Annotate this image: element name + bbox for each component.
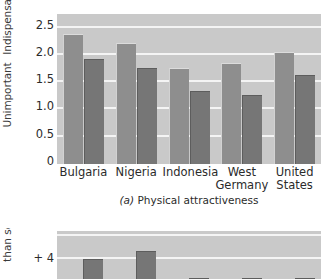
bar <box>169 68 189 164</box>
y-axis-tick-label: 2.0 <box>36 47 54 59</box>
x-axis-tick-labels: BulgariaNigeriaIndonesiaWestGermanyUnite… <box>57 166 321 194</box>
gridline <box>57 26 321 28</box>
bar <box>83 259 103 279</box>
bar <box>63 34 83 164</box>
caption-text: Physical attractiveness <box>137 194 258 206</box>
bar <box>84 59 104 164</box>
bar <box>242 95 262 164</box>
figure-panel-b: than self + 2+ 4 <box>0 228 323 279</box>
y-axis-tick-label: 1.0 <box>36 101 54 113</box>
bar <box>295 75 315 164</box>
bar <box>116 43 136 164</box>
x-axis-tick-label: Indonesia <box>163 166 216 179</box>
plot-area-panel-a <box>57 14 321 164</box>
caption-letter: (a) <box>120 194 135 206</box>
y-axis-label-than-self: than self <box>1 228 13 278</box>
bar <box>221 63 241 164</box>
bar <box>136 251 156 279</box>
figure-caption-a: (a) Physical attractiveness <box>57 194 321 206</box>
bar <box>190 91 210 164</box>
x-axis-tick-label: WestGermany <box>215 166 268 192</box>
y-axis-title-group: Indispensable Unimportant <box>1 12 21 162</box>
bar <box>274 52 294 164</box>
y-axis-tick-labels-b: + 2+ 4 <box>20 228 54 279</box>
y-axis-tick-labels: 00.51.01.52.02.5 <box>22 12 54 164</box>
plot-area-panel-b <box>57 231 321 279</box>
y-axis-tick-label: 1.5 <box>36 74 54 86</box>
y-axis-label-unimportant: Unimportant <box>1 20 13 170</box>
y-axis-tick-label: 0.5 <box>36 129 54 141</box>
x-axis-tick-label: UnitedStates <box>268 166 321 192</box>
y-axis-tick-label: 0 <box>47 156 54 168</box>
x-axis-tick-label: Bulgaria <box>57 166 110 179</box>
x-axis-tick-label: Nigeria <box>110 166 163 179</box>
y-axis-title-group-b: than self <box>1 228 21 279</box>
y-axis-tick-label: + 4 <box>33 253 54 265</box>
bar <box>137 68 157 164</box>
y-axis-tick-label: 2.5 <box>36 20 54 32</box>
gridline <box>57 234 321 236</box>
figure-panel-a: Indispensable Unimportant 00.51.01.52.02… <box>0 0 323 210</box>
